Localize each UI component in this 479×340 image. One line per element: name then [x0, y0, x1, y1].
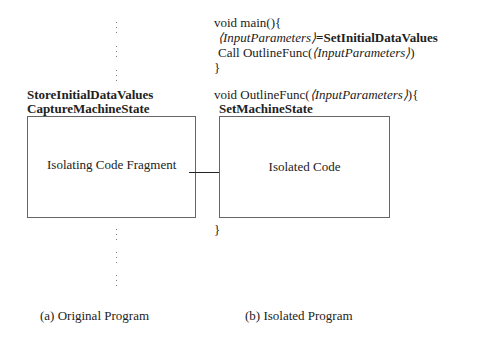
call-prefix: Call OutlineFunc(	[218, 45, 312, 60]
isolated-code-box: Isolated Code	[219, 116, 390, 218]
call-line: Call OutlineFunc(⟨InputParameters⟩)	[218, 45, 415, 60]
outline-signature: void OutlineFunc(⟨InputParameters⟩){	[214, 87, 418, 102]
arrow-shaft	[189, 172, 223, 173]
outline-arg: ⟨InputParameters⟩	[310, 87, 408, 102]
ellipsis-top	[116, 18, 118, 82]
input-parameters-lhs: ⟨InputParameters⟩	[218, 30, 316, 45]
caption-original-program: (a) Original Program	[40, 308, 149, 323]
assign-line: ⟨InputParameters⟩=SetInitialDataValues	[218, 30, 438, 45]
store-initial-data-values-label: StoreInitialDataValues	[27, 87, 153, 102]
call-arg: ⟨InputParameters⟩	[312, 45, 410, 60]
main-signature: void main(){	[214, 15, 281, 30]
call-suffix: )	[410, 45, 414, 60]
outline-suffix: ){	[408, 87, 419, 102]
isolated-code-label: Isolated Code	[220, 159, 389, 174]
assign-op: =	[316, 30, 323, 45]
main-close-brace: }	[214, 60, 220, 75]
isolating-code-fragment-label: Isolating Code Fragment	[47, 157, 176, 172]
set-machine-state-label: SetMachineState	[219, 101, 313, 116]
set-initial-data-values: SetInitialDataValues	[324, 30, 438, 45]
caption-isolated-program: (b) Isolated Program	[245, 308, 353, 323]
ellipsis-bottom	[116, 226, 118, 286]
capture-machine-state-label: CaptureMachineState	[27, 101, 150, 116]
outline-prefix: void OutlineFunc(	[214, 87, 310, 102]
outline-close-brace: }	[214, 222, 220, 237]
isolating-code-fragment-box: Isolating Code Fragment	[27, 116, 196, 218]
